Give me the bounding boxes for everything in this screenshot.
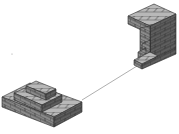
stepped-brick-corner-lower-left — [2, 81, 82, 127]
connector-line — [82, 66, 137, 100]
speck — [11, 53, 12, 54]
stepped-brick-wall-upper-right — [128, 4, 176, 69]
brick-scene — [0, 0, 179, 134]
